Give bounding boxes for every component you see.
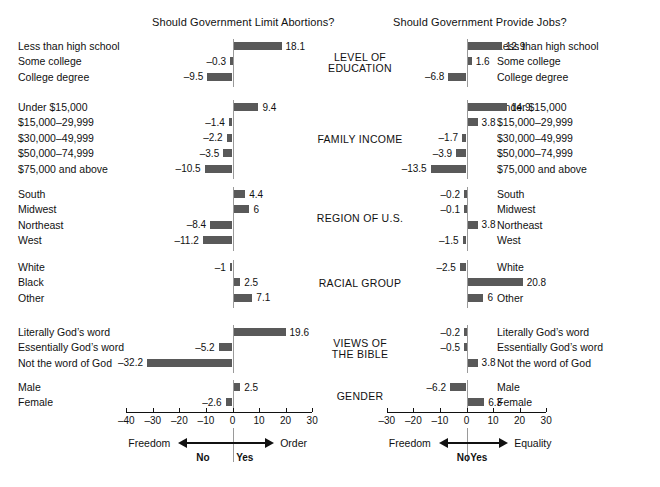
bar (431, 165, 467, 173)
zero-line (467, 100, 468, 179)
zero-line-axis-extension (233, 428, 234, 462)
bar-value-label: 7.1 (256, 293, 270, 303)
axis-anchor-positive-sub: Yes (470, 453, 487, 463)
x-axis-tick (546, 408, 547, 412)
group-label-line: RACIAL GROUP (290, 278, 430, 290)
bar (468, 359, 478, 367)
x-axis-tick (233, 408, 234, 412)
category-label: White (497, 262, 524, 273)
bar (234, 190, 246, 198)
bar-value-label: –1.4 (169, 118, 225, 128)
category-label: $75,000 and above (497, 164, 587, 175)
bar-value-label: –10.5 (145, 164, 201, 174)
bar (234, 383, 241, 391)
bar (464, 205, 467, 213)
category-label: Northeast (497, 220, 543, 231)
arrow-head-right-icon (499, 438, 508, 448)
bar (448, 73, 466, 81)
bar (462, 134, 467, 142)
axis-direction-arrow (186, 442, 266, 444)
bar (460, 263, 467, 271)
x-axis-tick (312, 408, 313, 412)
bar-value-label: 3.8 (482, 220, 496, 230)
axis-anchor-negative: Freedom (128, 438, 170, 449)
bar (234, 294, 253, 302)
bar (234, 103, 259, 111)
bar-value-label: 2.5 (244, 278, 258, 288)
category-label: Other (18, 293, 210, 304)
category-label: Female (497, 397, 532, 408)
bar (234, 328, 286, 336)
category-label: South (18, 189, 210, 200)
category-label: Some college (497, 56, 561, 67)
bar-value-label: 3.8 (482, 358, 496, 368)
arrow-head-left-icon (439, 438, 448, 448)
panel-title-jobs: Should Government Provide Jobs? (393, 16, 567, 28)
bar-value-label: –5.2 (159, 343, 215, 353)
bar (210, 221, 232, 229)
bar-value-label: 18.1 (286, 42, 305, 52)
bar (468, 42, 502, 50)
bar-value-label: –0.2 (404, 328, 460, 338)
bar (464, 343, 467, 351)
group-label-racial-group: RACIAL GROUP (290, 278, 430, 290)
bar-value-label: –1.5 (403, 236, 459, 246)
bar (223, 149, 232, 157)
bar-value-label: 6 (487, 293, 493, 303)
bar (207, 73, 232, 81)
bar-value-label: 4.4 (249, 190, 263, 200)
category-label: Under $15,000 (497, 102, 566, 113)
bar-value-label: 2.5 (244, 383, 258, 393)
bar-value-label: –3.5 (163, 149, 219, 159)
x-axis-rule (126, 412, 312, 413)
bar-value-label: –11.2 (143, 236, 199, 246)
category-label: Midwest (18, 204, 210, 215)
x-axis-tick (126, 408, 127, 412)
bar (468, 57, 472, 65)
bar (226, 398, 233, 406)
bar (456, 149, 466, 157)
bar (230, 57, 233, 65)
bar (468, 103, 508, 111)
axis-direction-arrow (447, 442, 500, 444)
bar (463, 236, 467, 244)
category-label: Essentially God’s word (497, 342, 603, 353)
bar (219, 343, 233, 351)
axis-anchor-negative-sub: No (457, 453, 470, 463)
bar (203, 236, 233, 244)
bar (468, 398, 485, 406)
group-label-level-of-education: LEVEL OFEDUCATION (290, 52, 430, 75)
bar-value-label: –6.2 (390, 383, 446, 393)
bar (230, 263, 233, 271)
arrow-head-right-icon (265, 438, 274, 448)
bar (450, 383, 466, 391)
x-axis-tick (179, 408, 180, 412)
x-axis-tick (206, 408, 207, 412)
bar-value-label: 20.8 (527, 278, 546, 288)
category-label: Under $15,000 (18, 102, 210, 113)
bar (464, 328, 467, 336)
bar-value-label: 6 (253, 205, 259, 215)
category-label: $15,000–29,999 (497, 117, 573, 128)
panel-title-abortions: Should Government Limit Abortions? (152, 16, 335, 28)
x-axis-tick (387, 408, 388, 412)
category-label: Not the word of God (497, 358, 591, 369)
bar-value-label: –2.5 (400, 263, 456, 273)
x-axis-tick (413, 408, 414, 412)
bar-value-label: –2.2 (167, 133, 223, 143)
arrow-head-left-icon (178, 438, 187, 448)
x-axis-tick-label: 30 (295, 416, 329, 426)
category-label: West (497, 235, 521, 246)
bar-value-label: –8.4 (150, 220, 206, 230)
bar (229, 118, 233, 126)
bar-value-label: –1 (170, 263, 226, 273)
axis-anchor-positive: Equality (514, 438, 551, 449)
category-label: $50,000–74,999 (497, 148, 573, 159)
bar-value-label: –13.5 (371, 164, 427, 174)
bar (468, 278, 523, 286)
category-label: Other (497, 293, 523, 304)
bar (147, 359, 232, 367)
bar-value-label: –2.6 (166, 398, 222, 408)
category-label: Literally God’s word (497, 327, 589, 338)
bar-value-label: –0.3 (170, 57, 226, 67)
